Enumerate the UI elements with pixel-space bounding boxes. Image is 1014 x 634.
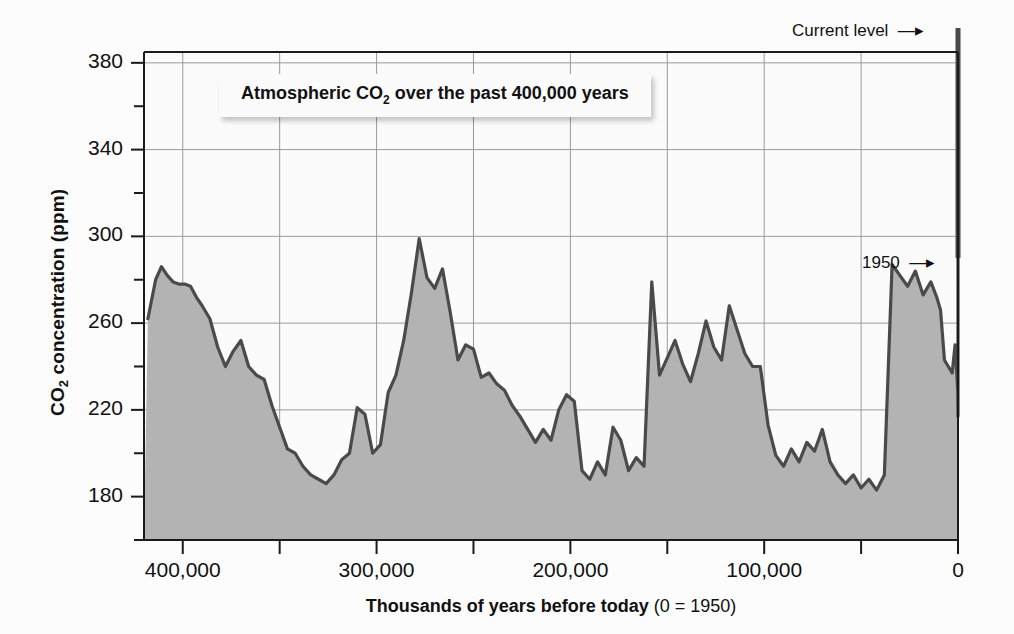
x-axis-title-bold: Thousands of years before today <box>366 596 654 616</box>
y-tick-label: 260 <box>53 309 123 333</box>
arrow-right-icon: —▸ <box>893 21 924 40</box>
y-tick-label: 220 <box>53 396 123 420</box>
annotation-current-level-label: Current level <box>792 21 888 40</box>
x-tick-label: 300,000 <box>297 558 457 582</box>
annotation-current-level: Current level —▸ <box>792 20 924 41</box>
chart-title-post: over the past 400,000 years <box>390 83 629 103</box>
annotation-1950-label: 1950 <box>862 253 900 272</box>
y-tick-label: 340 <box>53 136 123 160</box>
chart-title-sub: 2 <box>383 93 390 107</box>
x-tick-label: 0 <box>878 558 1014 582</box>
x-tick-label: 200,000 <box>490 558 650 582</box>
y-tick-label: 380 <box>53 49 123 73</box>
x-axis-title: Thousands of years before today (0 = 195… <box>144 596 958 617</box>
figure-root: CO2 concentration (ppm) Thousands of yea… <box>0 0 1014 634</box>
y-tick-label: 180 <box>53 483 123 507</box>
chart-title-pre: Atmospheric CO <box>241 83 383 103</box>
chart-title: Atmospheric CO2 over the past 400,000 ye… <box>219 74 651 117</box>
annotation-1950: 1950 —▸ <box>862 252 935 273</box>
y-tick-label: 300 <box>53 222 123 246</box>
arrow-right-icon: —▸ <box>905 253 936 272</box>
x-tick-label: 100,000 <box>684 558 844 582</box>
x-axis-title-light: (0 = 1950) <box>654 596 737 616</box>
x-tick-label: 400,000 <box>103 558 263 582</box>
